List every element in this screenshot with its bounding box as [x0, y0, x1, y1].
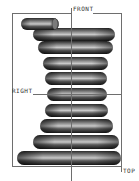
front-label-underline	[93, 13, 121, 14]
front-plane-label[interactable]: FRONT	[73, 6, 94, 12]
frame-top-left	[12, 13, 71, 14]
coil-top-end	[21, 18, 59, 30]
coil-3	[43, 57, 108, 70]
frame-bottom	[12, 166, 122, 167]
frame-right	[121, 13, 122, 167]
coil-6	[45, 104, 108, 117]
right-plane-label[interactable]: RIGHT	[12, 88, 33, 94]
top-plane-label[interactable]: TOP	[123, 168, 135, 174]
coil-4	[45, 72, 107, 85]
top-plane-tick	[121, 166, 122, 172]
right-plane-line[interactable]	[33, 94, 122, 95]
cad-viewport[interactable]: FRONT RIGHT TOP	[0, 0, 139, 181]
coil-9	[17, 151, 121, 165]
coil-2	[38, 41, 113, 54]
coil-8	[33, 135, 119, 149]
coil-7	[40, 119, 113, 133]
